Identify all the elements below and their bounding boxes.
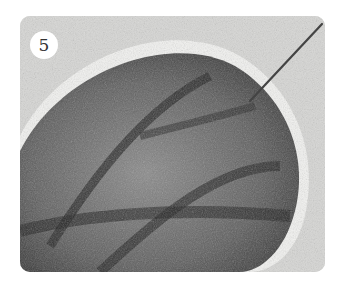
felted-leaf-illustration [20,16,325,272]
felting-photo [20,16,325,272]
step-number-badge: 5 [30,31,58,59]
step-number: 5 [39,35,50,55]
